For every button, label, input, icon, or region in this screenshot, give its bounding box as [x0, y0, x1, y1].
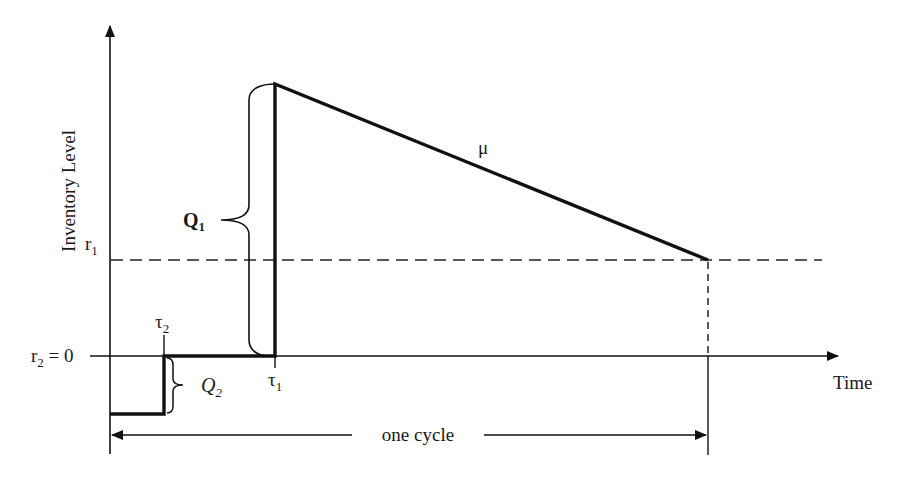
inventory-cycle-diagram: Inventory Level Time r1 r2 = 0 τ2 τ1 Q1 … — [0, 0, 924, 481]
cycle-label: one cycle — [382, 424, 454, 445]
q2-brace-icon — [167, 358, 183, 413]
r2-label: r2 = 0 — [31, 345, 74, 370]
q2-label: Q2 — [201, 374, 222, 400]
tau1-label: τ1 — [268, 369, 282, 394]
y-axis-label: Inventory Level — [58, 130, 79, 252]
q1-label: Q1 — [183, 209, 205, 234]
x-axis-label: Time — [833, 372, 872, 393]
q1-brace-icon — [221, 84, 275, 356]
demand-rate-label: μ — [478, 137, 488, 158]
r1-label: r1 — [85, 233, 98, 258]
tau2-label: τ2 — [155, 311, 169, 336]
inventory-level-path — [110, 84, 708, 414]
